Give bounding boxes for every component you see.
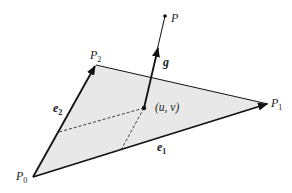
label-p2: P2 — [89, 48, 101, 64]
point-p — [163, 14, 167, 18]
triangle-diagram: P2 P g e2 (u, v) P1 e1 P0 — [0, 0, 292, 193]
point-uv — [142, 106, 146, 110]
label-p0: P0 — [15, 169, 27, 185]
label-e2: e2 — [53, 101, 62, 117]
label-uv: (u, v) — [155, 101, 179, 114]
label-p: P — [170, 11, 179, 25]
label-e1: e1 — [157, 140, 166, 156]
label-p1: P1 — [270, 96, 282, 112]
line-g-to-p — [156, 16, 165, 55]
label-g: g — [162, 55, 169, 69]
